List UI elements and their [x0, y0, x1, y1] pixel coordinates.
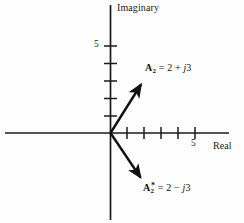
imaginary-axis-tick-label-5: 5 — [94, 39, 99, 49]
vector-arrow-a2 — [111, 85, 142, 134]
vector-a2-conjugate-operator: − — [174, 182, 180, 193]
vector-a2-equals: = — [159, 62, 165, 73]
complex-plane-svg — [0, 0, 244, 223]
complex-plane-figure: Imaginary Real 5 5 A2 = 2 + j3 A2* = 2 −… — [0, 0, 244, 223]
vector-a2-conjugate-imag-part: 3 — [186, 182, 191, 193]
vector-a2-conjugate-equals: = — [158, 182, 164, 193]
imaginary-axis-label: Imaginary — [117, 2, 159, 13]
vector-label-a2: A2 = 2 + j3 — [145, 62, 192, 73]
vector-a2-operator: + — [175, 62, 181, 73]
vector-a2-conjugate-real-part: 2 — [166, 182, 171, 193]
real-axis-label: Real — [213, 140, 232, 151]
vector-arrow-a2-conjugate — [111, 133, 141, 178]
vector-label-a2-conjugate: A2* = 2 − j3 — [143, 182, 191, 193]
vector-a2-imag-part: 3 — [186, 62, 191, 73]
vector-a2-subscript: 2 — [152, 67, 156, 75]
vector-a2-real-part: 2 — [167, 62, 172, 73]
real-axis-tick-label-5: 5 — [191, 138, 196, 148]
vector-a2-conjugate-superscript: * — [151, 181, 155, 190]
